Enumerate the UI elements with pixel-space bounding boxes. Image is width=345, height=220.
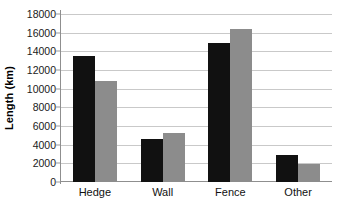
y-tick-label: 4000 (33, 139, 56, 150)
y-axis-title-text: Length (km) (3, 66, 15, 130)
bar[interactable] (230, 29, 252, 182)
x-tick-label: Hedge (61, 186, 129, 198)
bar-group (61, 14, 129, 182)
y-axis-tick-labels: 0200040006000800010000120001400016000180… (18, 14, 60, 182)
bar[interactable] (298, 164, 320, 182)
y-tick-label: 12000 (27, 65, 56, 76)
bar-chart-figure: Length (km) 0200040006000800010000120001… (0, 0, 345, 220)
bar[interactable] (95, 81, 117, 182)
bar[interactable] (141, 139, 163, 182)
x-axis-tick-labels: HedgeWallFenceOther (61, 186, 332, 206)
bars-layer (61, 14, 332, 182)
y-tick-label: 10000 (27, 83, 56, 94)
y-axis-title: Length (km) (0, 0, 18, 196)
bar[interactable] (208, 43, 230, 182)
bar[interactable] (276, 155, 298, 182)
y-tick-label: 8000 (33, 102, 56, 113)
y-tick-label: 16000 (27, 27, 56, 38)
bar[interactable] (163, 133, 185, 182)
x-tick-label: Wall (129, 186, 197, 198)
bar-group (264, 14, 332, 182)
y-tick-label: 6000 (33, 121, 56, 132)
plot-area (60, 14, 332, 182)
bar-group (129, 14, 197, 182)
y-tick-label: 14000 (27, 46, 56, 57)
y-tick-label: 2000 (33, 158, 56, 169)
bar-group (197, 14, 265, 182)
bar[interactable] (73, 56, 95, 182)
x-tick-label: Fence (197, 186, 265, 198)
y-tick-label: 18000 (27, 9, 56, 20)
x-tick-label: Other (264, 186, 332, 198)
